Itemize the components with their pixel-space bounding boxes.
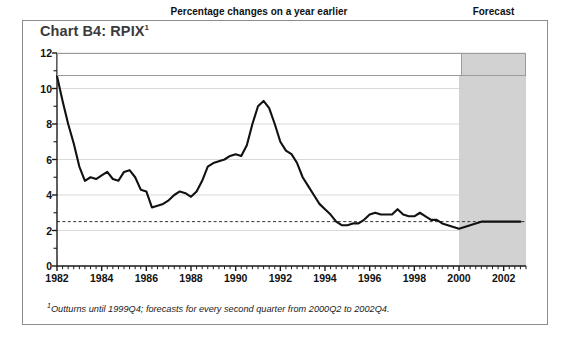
- y-axis-tick-label: 4: [28, 189, 52, 201]
- y-axis-tick-label: 2: [28, 225, 52, 237]
- x-axis-tick-label: 1982: [45, 272, 68, 284]
- page-title: Chart B4: RPIX1: [40, 23, 149, 39]
- chart-title-text: Chart B4: RPIX: [40, 23, 145, 39]
- y-axis-tick-label: 8: [28, 118, 52, 130]
- y-axis-tick-label: 0: [28, 260, 52, 272]
- subtitle-banner: [57, 53, 461, 76]
- x-axis-tick-label: 2002: [492, 272, 515, 284]
- forecast-banner-label: Forecast: [461, 0, 526, 23]
- x-axis-tick-label: 1984: [90, 272, 113, 284]
- x-axis-tick-label: 1986: [135, 272, 158, 284]
- chart-title-footnote-marker: 1: [145, 23, 150, 32]
- x-axis-tick-label: 1994: [313, 272, 336, 284]
- x-axis-tick-label: 1998: [403, 272, 426, 284]
- y-axis-labels: 024681012: [26, 0, 52, 347]
- footnote-text: Outturns until 1999Q4; forecasts for eve…: [51, 304, 390, 314]
- x-axis-tick-label: 2000: [447, 272, 470, 284]
- x-axis-tick-label: 1992: [269, 272, 292, 284]
- x-axis-tick-label: 1988: [179, 272, 202, 284]
- x-axis-tick-label: 1990: [224, 272, 247, 284]
- chart-screenshot: Chart B4: RPIX1 Percentage changes on a …: [0, 0, 570, 347]
- y-axis-tick-label: 12: [28, 47, 52, 59]
- forecast-banner: [461, 53, 526, 76]
- chart-footnote: 1Outturns until 1999Q4; forecasts for ev…: [47, 302, 390, 314]
- y-axis-tick-label: 10: [28, 83, 52, 95]
- x-axis-tick-label: 1996: [358, 272, 381, 284]
- y-axis-tick-label: 6: [28, 154, 52, 166]
- subtitle-banner-label: Percentage changes on a year earlier: [57, 0, 461, 23]
